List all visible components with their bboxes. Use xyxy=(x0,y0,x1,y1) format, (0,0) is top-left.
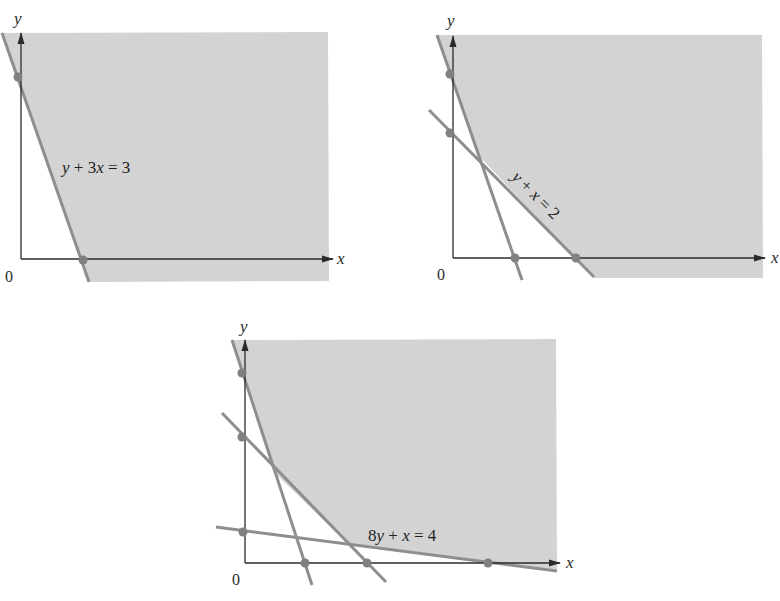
origin-label: 0 xyxy=(437,266,445,283)
diagrams-canvas: y x 0 y + 3x = 3 y x 0 y + x = 2 y x xyxy=(0,0,780,601)
constraint-label: y + 3x = 3 xyxy=(60,158,130,177)
intercept-point xyxy=(239,528,248,537)
y-axis-label: y xyxy=(445,11,455,30)
intercept-point xyxy=(446,70,455,79)
intercept-point xyxy=(363,559,372,568)
intercept-point xyxy=(79,256,88,265)
feasible-region-shading xyxy=(437,35,763,278)
x-axis-label: x xyxy=(336,249,345,268)
diagram-1: y x 0 y + 3x = 3 xyxy=(2,9,345,285)
origin-label: 0 xyxy=(232,571,240,588)
y-axis-label: y xyxy=(12,9,22,28)
origin-label: 0 xyxy=(5,268,13,285)
diagram-3: y x 0 8y + x = 4 xyxy=(216,317,574,588)
diagram-2: y x 0 y + x = 2 xyxy=(429,11,779,283)
y-axis-label: y xyxy=(238,317,248,336)
feasible-region-shading xyxy=(2,32,329,282)
x-axis-label: x xyxy=(770,248,779,267)
intercept-point xyxy=(238,433,247,442)
constraint-label: 8y + x = 4 xyxy=(368,526,437,545)
intercept-point xyxy=(446,129,455,138)
intercept-point xyxy=(238,369,247,378)
intercept-point xyxy=(484,559,493,568)
intercept-point xyxy=(301,559,310,568)
intercept-point xyxy=(572,254,581,263)
x-axis-label: x xyxy=(565,553,574,572)
intercept-point xyxy=(511,254,520,263)
intercept-point xyxy=(14,73,23,82)
